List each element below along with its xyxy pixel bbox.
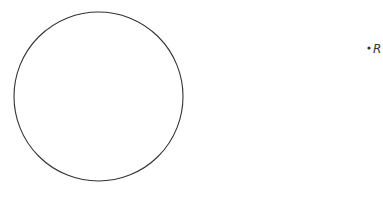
diagram-canvas: R (0, 0, 383, 198)
point-r-label: R (373, 42, 381, 56)
point-r-dot (367, 46, 370, 49)
circle (14, 12, 183, 181)
